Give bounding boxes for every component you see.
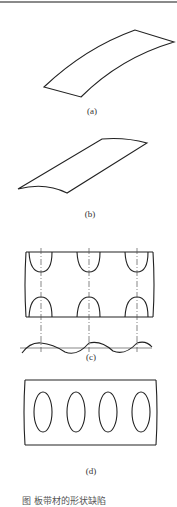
panel-b-shape [18, 139, 147, 194]
panel-b-label: (b) [85, 209, 96, 219]
panel-a-label: (a) [87, 106, 97, 116]
panel-d-label: (d) [86, 466, 97, 476]
panel-d-shape [24, 380, 157, 445]
panel-c-centerlines [41, 248, 137, 352]
panel-c-shape [25, 252, 154, 317]
panel-c-label: (c) [86, 352, 96, 362]
panel-a-shape [44, 30, 174, 97]
figure-caption: 图 板带材的形状缺陷 [22, 494, 106, 507]
